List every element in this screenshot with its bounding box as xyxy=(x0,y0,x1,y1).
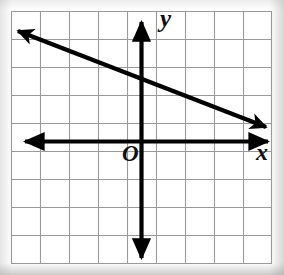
x-axis-label: x xyxy=(256,140,268,164)
y-axis-label: y xyxy=(160,6,171,31)
coordinate-plane-svg xyxy=(0,0,284,275)
origin-label: O xyxy=(122,142,139,165)
coordinate-plane-figure: y x O xyxy=(0,0,284,275)
